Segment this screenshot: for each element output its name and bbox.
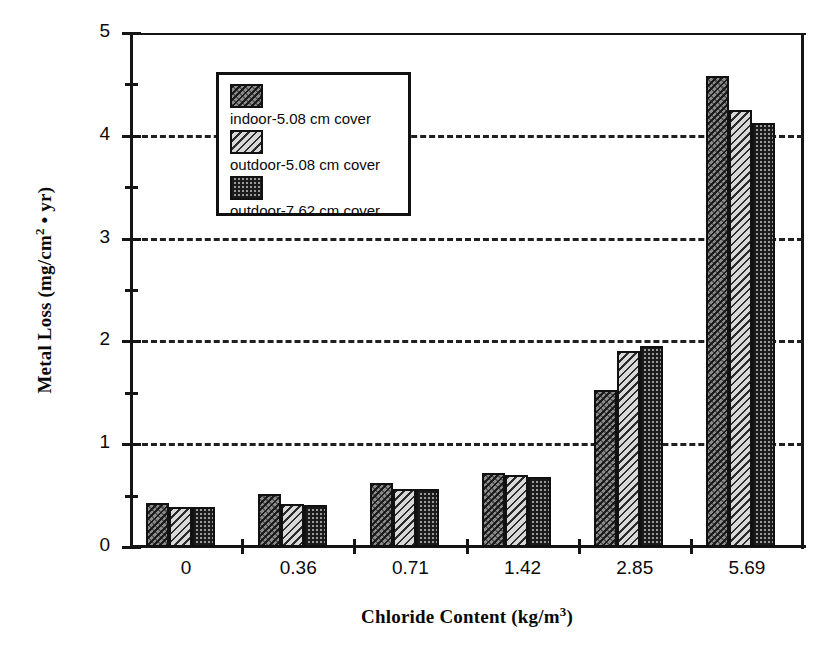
x-tick-label-0: 0 xyxy=(126,557,246,579)
legend-swatch-2 xyxy=(230,130,263,154)
bar-5.69-series2 xyxy=(729,110,752,547)
plot-right-border xyxy=(801,33,804,549)
gridline-1 xyxy=(133,443,803,446)
y-tick-minor-0.5 xyxy=(125,495,138,498)
bar-1.42-series1 xyxy=(482,473,505,547)
plot-top-border xyxy=(130,33,806,35)
bar-0.71-series3 xyxy=(416,489,439,547)
bar-0.71-series1 xyxy=(370,483,393,547)
legend-label-2: outdoor-5.08 cm cover xyxy=(230,156,380,173)
y-tick-label-3: 3 xyxy=(10,226,110,248)
y-tick-minor-3.5 xyxy=(125,186,138,189)
y-tick-label-0: 0 xyxy=(10,534,110,556)
x-axis-title-tail: ) xyxy=(566,606,573,627)
x-tick-label-0.71: 0.71 xyxy=(350,557,470,579)
bar-0.36-series3 xyxy=(304,505,327,547)
x-tick-2 xyxy=(466,539,469,554)
x-tick-label-1.42: 1.42 xyxy=(463,557,583,579)
x-tick-label-0.36: 0.36 xyxy=(238,557,358,579)
bar-0.36-series1 xyxy=(258,494,281,547)
y-tick-minor-2.5 xyxy=(125,289,138,292)
bar-chart: Metal Loss (mg/cm2 • yr) 012345 00.360.7… xyxy=(0,0,838,660)
bar-5.69-series3 xyxy=(752,123,775,547)
x-tick-4 xyxy=(690,539,693,554)
bar-1.42-series3 xyxy=(528,477,551,547)
legend-label-3: outdoor-7.62 cm cover xyxy=(230,202,380,219)
y-tick-minor-4.5 xyxy=(125,83,138,86)
y-tick-major-4 xyxy=(122,135,141,138)
legend-label-1: indoor-5.08 cm cover xyxy=(230,110,371,127)
bar-5.69-series1 xyxy=(706,76,729,547)
y-axis-title-tail: • yr) xyxy=(34,187,55,229)
y-tick-label-5: 5 xyxy=(10,20,110,42)
y-tick-major-0 xyxy=(122,546,141,549)
bar-2.85-series3 xyxy=(640,346,663,547)
y-tick-major-3 xyxy=(122,238,141,241)
x-tick-0 xyxy=(241,539,244,554)
gridline-3 xyxy=(133,238,803,241)
x-tick-1 xyxy=(353,539,356,554)
y-axis-title-base: Metal Loss (mg/cm xyxy=(34,235,55,394)
y-tick-minor-1.5 xyxy=(125,392,138,395)
bar-0.36-series2 xyxy=(281,504,304,547)
x-tick-label-2.85: 2.85 xyxy=(575,557,695,579)
bar-0.71-series2 xyxy=(393,489,416,547)
bar-0-series3 xyxy=(192,507,215,547)
y-tick-label-2: 2 xyxy=(10,328,110,350)
y-tick-major-1 xyxy=(122,443,141,446)
bar-1.42-series2 xyxy=(505,475,528,547)
y-tick-label-4: 4 xyxy=(10,123,110,145)
gridline-2 xyxy=(133,340,803,343)
y-tick-label-1: 1 xyxy=(10,431,110,453)
x-axis-title: Chloride Content (kg/m3) xyxy=(130,604,804,628)
bar-2.85-series2 xyxy=(617,351,640,547)
bar-2.85-series1 xyxy=(594,390,617,547)
legend: indoor-5.08 cm coveroutdoor-5.08 cm cove… xyxy=(216,72,411,216)
y-tick-major-2 xyxy=(122,340,141,343)
x-tick-3 xyxy=(578,539,581,554)
bar-0-series2 xyxy=(169,507,192,547)
x-axis-title-base: Chloride Content (kg/m xyxy=(361,606,560,627)
x-tick-label-5.69: 5.69 xyxy=(687,557,807,579)
legend-swatch-1 xyxy=(230,84,263,108)
bar-0-series1 xyxy=(146,503,169,547)
legend-swatch-3 xyxy=(230,176,263,200)
y-tick-major-5 xyxy=(122,32,141,35)
y-axis-title: Metal Loss (mg/cm2 • yr) xyxy=(32,90,56,490)
